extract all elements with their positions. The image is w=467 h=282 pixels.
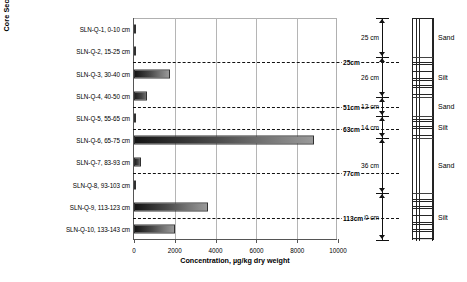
thickness-arrow-up-icon: [379, 58, 385, 62]
depth-boundary-label: 113cm: [342, 214, 364, 221]
bar: [134, 91, 147, 100]
x-axis-tick-label: 8000: [290, 247, 304, 254]
lithology-layer-label: Silt: [438, 213, 448, 220]
lithology-layer: [413, 139, 433, 195]
thickness-label: 26 cm: [344, 73, 380, 80]
depth-boundary-label: 51cm: [342, 103, 361, 110]
y-axis-category-label: SLN-Q-10, 133-143 cm: [66, 225, 130, 232]
thickness-arrow-down-icon: [379, 111, 385, 115]
lithology-layer: [413, 117, 433, 139]
bar: [134, 224, 175, 233]
bar: [134, 113, 136, 122]
y-axis-category-label: SLN-Q-8, 93-103 cm: [73, 181, 130, 188]
x-axis-title: Concentration, µg/kg dry weight: [133, 256, 337, 265]
x-axis-tick-label: 4000: [209, 247, 223, 254]
plot-top-border: [134, 18, 337, 19]
y-axis-category-label: SLN-Q-5, 55-65 cm: [76, 114, 130, 121]
depth-boundary-label: 25cm: [342, 59, 361, 66]
lithology-layer: [413, 19, 433, 58]
thickness-arrow-up-icon: [379, 194, 385, 198]
y-axis-title: Core Section ID, depth (cm): [2, 0, 11, 58]
thickness-arrow-up-icon: [379, 19, 385, 23]
depth-boundary-label: 77cm: [342, 170, 361, 177]
thickness-arrow-up-icon: [379, 98, 385, 102]
x-axis-tick: [216, 239, 217, 243]
lithology-column: [412, 18, 434, 240]
y-axis-category-label: SLN-Q-3, 30-40 cm: [76, 70, 130, 77]
x-axis-tick-label: 6000: [249, 247, 263, 254]
bar: [134, 47, 136, 56]
bar: [134, 69, 170, 78]
thickness-arrow-down-icon: [379, 235, 385, 239]
y-axis-category-label: SLN-Q-9, 113-123 cm: [70, 203, 130, 210]
thickness-arrow-down-icon: [379, 52, 385, 56]
thickness-arrow-down-icon: [379, 133, 385, 137]
thickness-cap: [376, 240, 389, 241]
lithology-layer-label: Sand: [438, 162, 454, 169]
lithology-layer-label: Silt: [438, 123, 448, 130]
thickness-line: [382, 193, 383, 240]
y-axis-category-labels: SLN-Q-1, 0-10 cmSLN-Q-2, 15-25 cmSLN-Q-3…: [18, 18, 130, 240]
thickness-label: 25 cm: [344, 34, 380, 41]
depth-boundary-label: 63cm: [342, 126, 361, 133]
lithology-layer-label: Sand: [438, 34, 454, 41]
bar: [134, 25, 136, 34]
bar: [134, 202, 208, 211]
y-axis-category-label: SLN-Q-4, 40-50 cm: [76, 92, 130, 99]
x-axis-tick: [134, 239, 135, 243]
lithology-layer-label: Sand: [438, 103, 454, 110]
thickness-label: 36 cm: [344, 162, 380, 169]
thickness-arrow-down-icon: [379, 92, 385, 96]
thickness-line: [382, 138, 383, 194]
thickness-arrow-up-icon: [379, 139, 385, 143]
x-axis-tick-label: 2000: [168, 247, 182, 254]
x-axis-tick: [297, 239, 298, 243]
lithology-layer: [413, 194, 433, 241]
x-axis-tick: [175, 239, 176, 243]
x-axis-tick-label: 0: [132, 247, 136, 254]
x-axis-tick: [338, 239, 339, 243]
thickness-arrow-down-icon: [379, 188, 385, 192]
lithology-layer-label: Silt: [438, 73, 448, 80]
thickness-arrow-up-icon: [379, 117, 385, 121]
y-axis-category-label: SLN-Q-2, 15-25 cm: [76, 48, 130, 55]
bar: [134, 180, 136, 189]
chart-figure: Core Section ID, depth (cm) SLN-Q-1, 0-1…: [0, 0, 467, 282]
y-axis-title-container: Core Section ID, depth (cm): [0, 0, 16, 240]
y-axis-category-label: SLN-Q-7, 83-93 cm: [76, 159, 130, 166]
x-axis-tick-label: 10000: [329, 247, 347, 254]
y-axis-category-label: SLN-Q-6, 65-75 cm: [76, 137, 130, 144]
bar: [134, 136, 314, 145]
lithology-layer: [413, 58, 433, 98]
bar: [134, 158, 141, 167]
x-axis-tick: [256, 239, 257, 243]
y-axis-category-label: SLN-Q-1, 0-10 cm: [80, 26, 130, 33]
lithology-layer: [413, 98, 433, 117]
